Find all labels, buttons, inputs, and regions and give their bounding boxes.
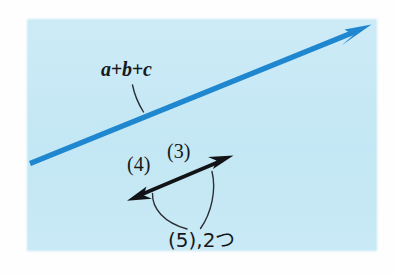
sum-vector-label: a+b+c (101, 59, 152, 79)
component-four-label: (4) (127, 154, 150, 174)
figure-root: a+b+c (3) (4) (5),2つ (0, 0, 396, 274)
background-panel (27, 19, 377, 251)
annotation-five-label: (5),2つ (168, 230, 235, 250)
component-three-label: (3) (167, 141, 190, 161)
